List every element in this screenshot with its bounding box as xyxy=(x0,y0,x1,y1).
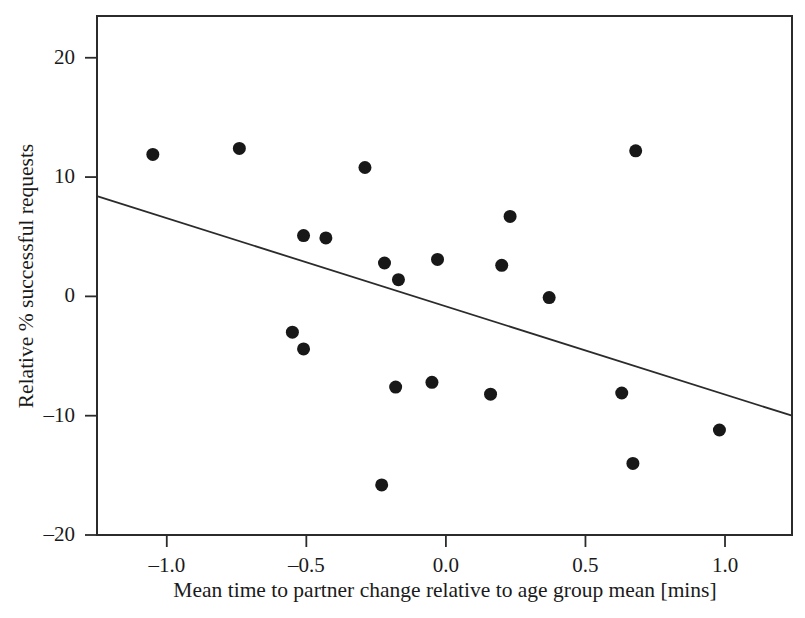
plot-canvas: 20100–10–20 –1.0–0.50.00.51.0 Mean time … xyxy=(0,0,805,618)
data-point xyxy=(626,457,639,470)
data-point xyxy=(629,144,642,157)
x-tick-label: 0.5 xyxy=(572,553,598,577)
data-point xyxy=(425,376,438,389)
data-point xyxy=(495,259,508,272)
x-axis-label: Mean time to partner change relative to … xyxy=(173,578,716,602)
axes-frame xyxy=(97,16,792,535)
data-point xyxy=(233,142,246,155)
trendline xyxy=(97,196,792,416)
data-point xyxy=(286,326,299,339)
data-point xyxy=(431,253,444,266)
scatter-plot-figure: 20100–10–20 –1.0–0.50.00.51.0 Mean time … xyxy=(0,0,805,618)
y-axis-ticks: 20100–10–20 xyxy=(43,45,98,546)
data-point xyxy=(543,291,556,304)
data-point xyxy=(484,388,497,401)
x-tick-label: –1.0 xyxy=(147,553,185,577)
y-tick-label: 0 xyxy=(65,283,76,307)
y-tick-label: –10 xyxy=(43,403,76,427)
y-axis-label: Relative % successful requests xyxy=(14,144,38,409)
data-point xyxy=(389,381,402,394)
y-tick-label: –20 xyxy=(43,522,76,546)
data-point xyxy=(319,231,332,244)
regression-trendline xyxy=(97,196,792,416)
x-tick-label: 1.0 xyxy=(712,553,738,577)
data-point xyxy=(378,256,391,269)
data-point xyxy=(297,229,310,242)
data-point xyxy=(146,148,159,161)
data-point xyxy=(713,424,726,437)
data-point xyxy=(615,387,628,400)
x-tick-label: 0.0 xyxy=(433,553,459,577)
y-tick-label: 20 xyxy=(54,45,75,69)
data-points xyxy=(146,142,726,491)
data-point xyxy=(392,273,405,286)
x-axis-ticks: –1.0–0.50.00.51.0 xyxy=(147,535,738,577)
data-point xyxy=(375,478,388,491)
data-point xyxy=(297,342,310,355)
axes-box xyxy=(97,16,792,535)
x-tick-label: –0.5 xyxy=(287,553,325,577)
y-tick-label: 10 xyxy=(54,164,75,188)
data-point xyxy=(504,210,517,223)
data-point xyxy=(358,161,371,174)
